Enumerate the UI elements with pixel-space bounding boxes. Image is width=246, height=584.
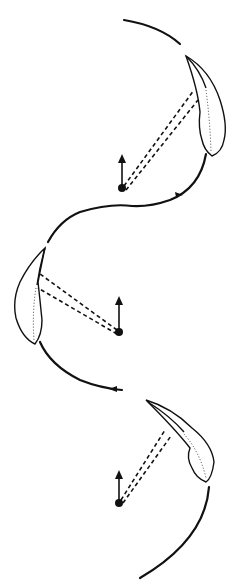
reference-point-bottom (115, 470, 123, 507)
up-arrow-icon (115, 296, 123, 305)
dot-icon (115, 499, 123, 507)
organism-top (186, 56, 225, 156)
reference-point-middle (115, 296, 123, 336)
dot-icon (115, 328, 123, 336)
trajectory-diagram (0, 0, 246, 584)
up-arrow-icon (118, 154, 126, 163)
up-arrow-icon (115, 470, 123, 479)
organism-bottom (146, 400, 214, 482)
dot-icon (118, 184, 126, 192)
reference-point-top (118, 154, 126, 192)
direction-arrow-icon (109, 386, 117, 392)
organism-middle (15, 248, 45, 344)
dashed-connectors (38, 90, 198, 503)
